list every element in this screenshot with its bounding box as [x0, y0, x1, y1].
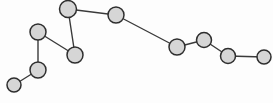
graph-canvas [0, 0, 273, 103]
graph-node[interactable] [7, 78, 21, 92]
graph-node[interactable] [67, 47, 83, 63]
graph-node[interactable] [30, 24, 46, 40]
node-link-diagram [0, 0, 273, 103]
graph-node[interactable] [197, 33, 212, 48]
graph-edge [116, 15, 177, 47]
graph-node[interactable] [108, 7, 124, 23]
node-layer [7, 1, 271, 93]
graph-node[interactable] [60, 1, 77, 18]
edge-layer [14, 9, 264, 85]
graph-node[interactable] [169, 39, 185, 55]
graph-node[interactable] [221, 49, 236, 64]
graph-node[interactable] [257, 50, 271, 64]
graph-node[interactable] [30, 62, 46, 78]
